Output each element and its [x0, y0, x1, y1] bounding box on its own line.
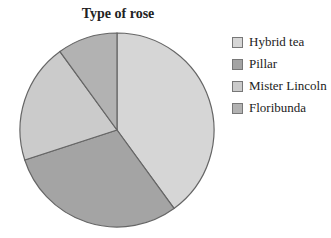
legend: Hybrid tea Pillar Mister Lincoln Floribu… [232, 31, 327, 119]
legend-label: Pillar [249, 56, 277, 72]
legend-swatch [232, 59, 243, 70]
pie-slices [20, 33, 214, 227]
legend-item-pillar: Pillar [232, 53, 327, 75]
legend-label: Floribunda [249, 100, 306, 116]
legend-label: Hybrid tea [249, 34, 304, 50]
legend-item-floribunda: Floribunda [232, 97, 327, 119]
legend-swatch [232, 37, 243, 48]
legend-item-mister-lincoln: Mister Lincoln [232, 75, 327, 97]
legend-item-hybrid-tea: Hybrid tea [232, 31, 327, 53]
legend-label: Mister Lincoln [249, 78, 327, 94]
legend-swatch [232, 81, 243, 92]
legend-swatch [232, 103, 243, 114]
